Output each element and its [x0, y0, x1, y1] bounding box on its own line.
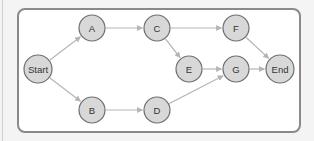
- node-label: E: [186, 64, 192, 75]
- edge-c-to-e: [166, 39, 180, 58]
- node-label: F: [233, 23, 239, 34]
- edge-f-to-end: [246, 38, 268, 59]
- node-f[interactable]: F: [223, 15, 249, 41]
- node-label: A: [89, 23, 96, 34]
- node-end[interactable]: End: [266, 55, 294, 83]
- node-label: D: [154, 105, 161, 116]
- edge-start-to-b: [50, 78, 81, 101]
- node-label: G: [232, 64, 239, 75]
- node-b[interactable]: B: [79, 97, 105, 123]
- node-start[interactable]: Start: [24, 55, 52, 83]
- node-label: B: [89, 105, 95, 116]
- node-a[interactable]: A: [79, 15, 105, 41]
- node-label: C: [154, 23, 161, 34]
- node-d[interactable]: D: [144, 97, 170, 123]
- node-e[interactable]: E: [176, 56, 202, 82]
- node-label: Start: [28, 64, 48, 75]
- node-g[interactable]: G: [223, 56, 249, 82]
- node-label: End: [272, 64, 289, 75]
- flow-graph: StartABCDEFGEnd: [0, 0, 314, 141]
- node-c[interactable]: C: [144, 15, 170, 41]
- edge-start-to-a: [50, 37, 81, 60]
